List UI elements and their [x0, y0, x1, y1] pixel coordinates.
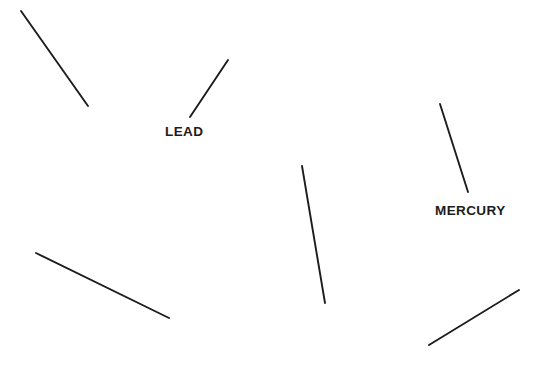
line-segments-figure: LEAD MERCURY [0, 0, 558, 368]
lead-label: LEAD [165, 124, 203, 139]
unlabeled-segment-2 [302, 166, 325, 303]
mercury-segment [440, 104, 468, 192]
unlabeled-segment-4 [429, 290, 519, 345]
lead-segment [190, 60, 228, 117]
mercury-label: MERCURY [435, 203, 506, 218]
figure-canvas: LEAD MERCURY [0, 0, 558, 368]
unlabeled-segment-1 [21, 11, 88, 106]
unlabeled-segment-3 [36, 253, 169, 318]
